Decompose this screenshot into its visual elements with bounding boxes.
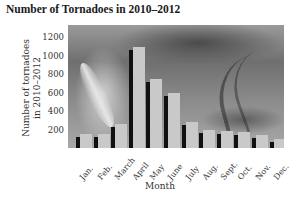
bar-feb [98, 134, 110, 148]
bar-sept [221, 131, 233, 148]
bar-aug [203, 130, 215, 148]
bar-nov [256, 135, 268, 148]
x-axis-label: Month [145, 181, 175, 191]
bar-june [168, 93, 180, 148]
tornado-funnel-decoration [74, 59, 120, 130]
x-tick-label: May [148, 163, 166, 182]
x-tick-label: July [184, 164, 201, 182]
bar-april [133, 47, 145, 148]
y-tick-label: 200 [36, 125, 64, 135]
x-tick-label: Nov. [254, 162, 272, 182]
bar-oct [238, 132, 250, 148]
y-tick-label: 600 [36, 88, 64, 98]
bar-july [186, 122, 198, 148]
x-tick-label: Aug. [201, 162, 220, 182]
y-tick-label: 1200 [36, 32, 64, 42]
x-tick-label: Jan. [78, 164, 95, 182]
bar-march [115, 124, 127, 148]
x-tick-label: Feb. [96, 163, 114, 182]
bar-may [150, 79, 162, 148]
chart-title: Number of Tornadoes in 2010–2012 [6, 3, 180, 15]
y-axis-label-line-1: Number of tornadoes [21, 28, 32, 148]
y-tick-label: 1000 [36, 51, 64, 61]
x-tick-label: Sept. [219, 160, 239, 182]
y-tick-label: 800 [36, 69, 64, 79]
x-tick-label: Dec. [272, 162, 291, 182]
y-tick-label: 400 [36, 106, 64, 116]
x-tick-label: June [166, 162, 185, 182]
plot-area [68, 25, 284, 148]
bar-dec [274, 139, 284, 148]
bar-jan [80, 134, 92, 148]
